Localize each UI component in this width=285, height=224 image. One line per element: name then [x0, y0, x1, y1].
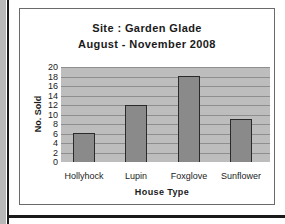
bottom-divider	[7, 215, 285, 218]
gridline	[61, 77, 270, 78]
plot-area	[61, 67, 270, 162]
chart-subtitle: August - November 2008	[20, 38, 274, 50]
x-tick-label: Foxglove	[159, 171, 219, 181]
x-tick-label: Sunflower	[211, 171, 271, 181]
bar-sunflower	[230, 119, 252, 162]
gridline	[61, 96, 270, 97]
y-tick-label: 16	[42, 82, 58, 91]
gridline	[61, 86, 270, 87]
chart-panel: Site : Garden Glade August - November 20…	[19, 8, 275, 205]
x-axis-label: House Type	[20, 187, 274, 197]
x-tick-label: Lupin	[106, 171, 166, 181]
y-tick-label: 20	[42, 63, 58, 72]
bar-hollyhock	[73, 133, 95, 162]
y-tick-label: 0	[42, 158, 58, 167]
y-tick-label: 12	[42, 101, 58, 110]
gridline	[61, 105, 270, 106]
x-tick-label: Hollyhock	[54, 171, 114, 181]
bar-lupin	[125, 105, 147, 162]
left-divider	[7, 0, 9, 224]
y-tick-label: 8	[42, 120, 58, 129]
gridline	[61, 67, 270, 68]
left-edge-strip	[0, 0, 6, 224]
gridline	[61, 115, 270, 116]
y-tick-label: 4	[42, 139, 58, 148]
chart-title: Site : Garden Glade	[20, 22, 274, 34]
bar-foxglove	[178, 76, 200, 162]
